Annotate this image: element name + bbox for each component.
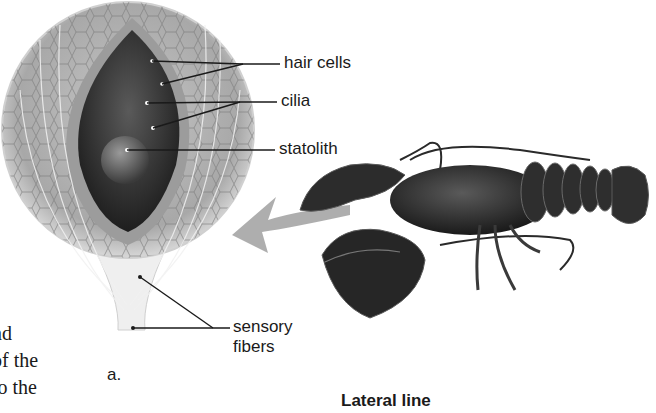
statocyst bbox=[2, 2, 254, 330]
body-text-line-3: to the bbox=[0, 374, 37, 401]
label-cilia: cilia bbox=[281, 91, 310, 111]
label-sensory-fibers-1: sensory bbox=[233, 317, 293, 337]
label-hair-cells: hair cells bbox=[284, 53, 351, 73]
body-text-line-1: nd bbox=[0, 320, 12, 347]
body-text-line-2: of the bbox=[0, 347, 38, 374]
label-statolith: statolith bbox=[279, 139, 338, 159]
lobster bbox=[300, 143, 649, 318]
caption-lateral-line: Lateral line bbox=[341, 391, 431, 411]
label-sensory-fibers-2: fibers bbox=[233, 337, 275, 357]
panel-label-a: a. bbox=[107, 365, 121, 385]
